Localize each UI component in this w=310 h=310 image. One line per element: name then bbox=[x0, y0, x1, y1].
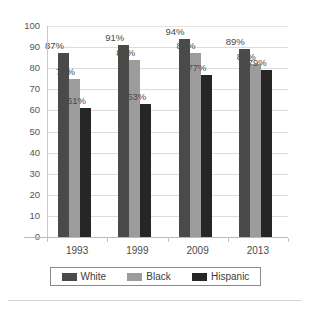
bar-group: 89%82%79% bbox=[228, 26, 288, 237]
legend-swatch-icon bbox=[127, 273, 142, 281]
x-axis-tick bbox=[168, 238, 169, 242]
y-axis-line bbox=[47, 26, 48, 238]
bar-value-label: 61% bbox=[67, 96, 86, 106]
bar-group: 87%75%61% bbox=[47, 26, 107, 237]
x-axis-tick bbox=[288, 238, 289, 242]
x-axis-tick bbox=[228, 238, 229, 242]
x-axis-label-2013: 2013 bbox=[228, 245, 288, 256]
legend-swatch-icon bbox=[192, 273, 207, 281]
y-axis-tick-label: 100 bbox=[14, 21, 40, 31]
bar-white-1999 bbox=[118, 45, 129, 237]
plot-area: 87%75%61%91%84%63%94%87%77%89%82%79% bbox=[47, 26, 288, 237]
x-axis-tick bbox=[107, 238, 108, 242]
x-axis-line bbox=[24, 237, 288, 238]
bar-black-2009 bbox=[190, 53, 201, 237]
bar-white-2013 bbox=[239, 49, 250, 237]
bar-hispanic-1993 bbox=[80, 108, 91, 237]
bar-value-label: 84% bbox=[116, 48, 135, 58]
bottom-divider bbox=[8, 300, 302, 301]
y-axis-tick-label: 10 bbox=[14, 211, 40, 221]
bar-value-label: 77% bbox=[188, 63, 207, 73]
bar-group: 91%84%63% bbox=[107, 26, 167, 237]
y-axis-tick-label: 70 bbox=[14, 84, 40, 94]
bar-value-label: 94% bbox=[166, 27, 185, 37]
bar-value-label: 91% bbox=[105, 33, 124, 43]
legend-item-black[interactable]: Black bbox=[127, 271, 170, 282]
bar-value-label: 63% bbox=[127, 92, 146, 102]
y-axis-tick-label: 80 bbox=[14, 63, 40, 73]
x-axis-tick bbox=[47, 238, 48, 242]
x-axis-label-1999: 1999 bbox=[107, 245, 167, 256]
bar-value-label: 79% bbox=[248, 58, 267, 68]
bar-hispanic-1999 bbox=[140, 104, 151, 237]
legend-label: Black bbox=[146, 271, 170, 282]
y-axis-tick-label: 50 bbox=[14, 127, 40, 137]
x-axis-label-2009: 2009 bbox=[168, 245, 228, 256]
bar-value-label: 89% bbox=[226, 37, 245, 47]
legend-swatch-icon bbox=[62, 273, 77, 281]
bar-black-2013 bbox=[250, 64, 261, 237]
y-axis-tick-label: 30 bbox=[14, 169, 40, 179]
legend-item-hispanic[interactable]: Hispanic bbox=[192, 271, 249, 282]
y-axis-tick-label: 40 bbox=[14, 148, 40, 158]
bar-value-label: 75% bbox=[56, 67, 75, 77]
bar-hispanic-2009 bbox=[201, 75, 212, 237]
legend-item-white[interactable]: White bbox=[62, 271, 107, 282]
bar-group: 94%87%77% bbox=[168, 26, 228, 237]
x-axis-label-1993: 1993 bbox=[47, 245, 107, 256]
chart-legend: WhiteBlackHispanic bbox=[50, 267, 261, 286]
bar-chart: 1009080706050403020100 87%75%61%91%84%63… bbox=[0, 0, 310, 310]
legend-label: Hispanic bbox=[211, 271, 249, 282]
y-axis-tick-label: 20 bbox=[14, 190, 40, 200]
bar-value-label: 87% bbox=[177, 41, 196, 51]
y-axis-tick-label: 90 bbox=[14, 42, 40, 52]
y-axis-tick-label: 60 bbox=[14, 105, 40, 115]
bar-hispanic-2013 bbox=[261, 70, 272, 237]
legend-label: White bbox=[81, 271, 107, 282]
bar-white-1993 bbox=[58, 53, 69, 237]
bar-black-1999 bbox=[129, 60, 140, 237]
